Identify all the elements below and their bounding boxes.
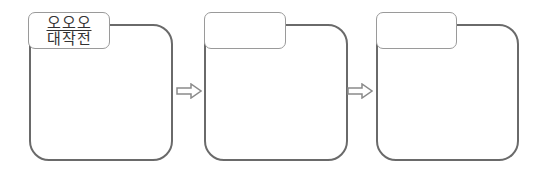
step-1-title-line-2: 대작전 [47,31,92,47]
step-1-title-tab: 오오오 대작전 [28,12,110,49]
step-2-title-tab [204,12,286,49]
step-1-title-line-1: 오오오 [47,15,92,31]
right-arrow-icon [176,83,202,99]
right-arrow-icon [347,83,373,99]
step-3-title-tab [376,12,457,49]
